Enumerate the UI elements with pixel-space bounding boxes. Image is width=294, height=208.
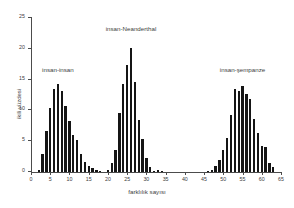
x-tick: [89, 172, 90, 175]
y-tick-label: 5: [22, 136, 25, 143]
x-tick: [185, 172, 186, 175]
x-tick-label: 0: [30, 176, 33, 183]
x-tick-label: 65: [278, 176, 284, 183]
x-tick-label: 50: [220, 176, 226, 183]
x-tick-label: 20: [105, 176, 111, 183]
x-tick-label: 40: [182, 176, 188, 183]
series-label: insan-şempanze: [220, 66, 265, 73]
x-tick: [69, 172, 70, 175]
x-tick: [166, 172, 167, 175]
x-tick: [204, 172, 205, 175]
x-tick: [223, 172, 224, 175]
x-tick-label: 15: [86, 176, 92, 183]
y-axis-title: ikili yüzdesi: [16, 89, 22, 119]
x-tick-label: 60: [259, 176, 265, 183]
x-tick: [281, 172, 282, 175]
x-tick: [127, 172, 128, 175]
x-tick: [31, 172, 32, 175]
x-tick-label: 35: [163, 176, 169, 183]
x-tick-label: 45: [201, 176, 207, 183]
y-tick-label: 10: [19, 105, 25, 112]
series-label: insan-insan: [42, 66, 74, 73]
x-axis-title: farklılık sayısı: [0, 188, 294, 195]
y-tick-label: 20: [19, 44, 25, 51]
x-tick: [146, 172, 147, 175]
y-tick-label: 15: [19, 75, 25, 82]
x-tick: [108, 172, 109, 175]
x-tick-label: 55: [240, 176, 246, 183]
y-tick-label: 25: [19, 13, 25, 20]
x-tick-label: 30: [143, 176, 149, 183]
x-tick-label: 10: [67, 176, 73, 183]
series-annotations: insan-insaninsan-Neanderthalinsan-şempan…: [31, 18, 281, 172]
plot-area: 0510152025 05101520253035404550556065 in…: [31, 18, 281, 172]
y-tick-label: 0: [22, 167, 25, 174]
x-tick: [243, 172, 244, 175]
x-tick: [262, 172, 263, 175]
chart-figure: ikili yüzdesi farklılık sayısı 051015202…: [0, 0, 294, 208]
x-tick: [50, 172, 51, 175]
series-label: insan-Neanderthal: [106, 25, 157, 32]
x-tick-label: 5: [49, 176, 52, 183]
x-tick-label: 25: [124, 176, 130, 183]
